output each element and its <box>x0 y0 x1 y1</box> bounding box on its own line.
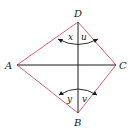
angle-label-y: y <box>66 94 73 104</box>
angle-label-x: x <box>68 32 73 42</box>
kite-diagram: D A C B x u y v <box>0 0 134 133</box>
angle-label-u: u <box>81 32 87 42</box>
vertex-label-a: A <box>4 60 12 71</box>
vertex-label-d: D <box>73 8 82 19</box>
angle-label-v: v <box>82 94 87 104</box>
vertex-label-c: C <box>119 60 127 71</box>
vertex-label-b: B <box>73 117 81 128</box>
